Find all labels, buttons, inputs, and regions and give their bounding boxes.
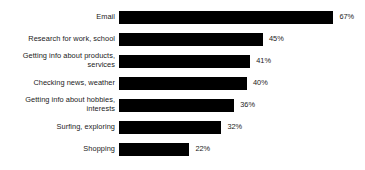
chart-row: Shopping 22% xyxy=(0,138,365,160)
bar xyxy=(119,11,333,24)
bar-value-label: 40% xyxy=(253,79,268,88)
chart-row: Email 67% xyxy=(0,6,365,28)
bar xyxy=(119,33,263,46)
category-label: Surfing, exploring xyxy=(0,123,119,132)
bar-track: 40% xyxy=(119,72,365,94)
bar xyxy=(119,143,189,156)
bar xyxy=(119,55,250,68)
bar xyxy=(119,121,221,134)
category-label: Email xyxy=(0,13,119,22)
bar-track: 41% xyxy=(119,50,365,72)
category-label: Research for work, school xyxy=(0,35,119,44)
bar-value-label: 36% xyxy=(240,101,255,110)
category-label: Getting info about products, services xyxy=(0,52,119,69)
chart-row: Getting info about products, services 41… xyxy=(0,50,365,72)
bar-value-label: 41% xyxy=(256,57,271,66)
bar-value-label: 22% xyxy=(195,145,210,154)
chart-row: Surfing, exploring 32% xyxy=(0,116,365,138)
bar-track: 36% xyxy=(119,94,365,116)
category-label: Checking news, weather xyxy=(0,79,119,88)
bar-track: 45% xyxy=(119,28,365,50)
bar-track: 67% xyxy=(119,6,365,28)
bar-value-label: 67% xyxy=(339,13,354,22)
bar-value-label: 45% xyxy=(269,35,284,44)
chart-row: Research for work, school 45% xyxy=(0,28,365,50)
bar xyxy=(119,77,247,90)
bar-value-label: 32% xyxy=(227,123,242,132)
bar xyxy=(119,99,234,112)
chart-row: Checking news, weather 40% xyxy=(0,72,365,94)
bar-track: 22% xyxy=(119,138,365,160)
bar-track: 32% xyxy=(119,116,365,138)
category-label: Shopping xyxy=(0,145,119,154)
chart-row: Getting info about hobbies, interests 36… xyxy=(0,94,365,116)
category-label: Getting info about hobbies, interests xyxy=(0,96,119,113)
horizontal-bar-chart: Email 67% Research for work, school 45% … xyxy=(0,0,365,170)
